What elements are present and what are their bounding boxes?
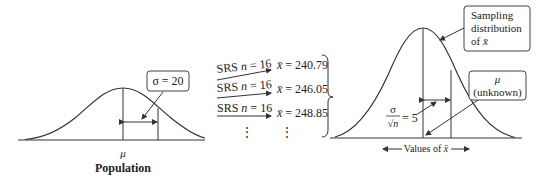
sampling-distribution: Sampling distribution of x̄ μ (unknown) …	[330, 6, 530, 154]
svg-text:distribution: distribution	[471, 22, 522, 34]
ellipsis-right: ⋮	[281, 125, 293, 139]
svg-text:x̄ = 240.79: x̄ = 240.79	[276, 58, 328, 72]
standard-error-label: σ √n = 5	[386, 102, 436, 129]
sample-row: SRS n = 16 x̄ = 246.05	[216, 77, 328, 98]
svg-text:μ: μ	[494, 73, 501, 85]
svg-text:= 5: = 5	[402, 111, 418, 125]
sample-row: SRS n = 16 x̄ = 240.79	[216, 56, 328, 80]
population-mu-label: μ	[119, 147, 126, 159]
svg-text:Sampling: Sampling	[471, 9, 514, 21]
svg-text:Values of x̄: Values of x̄	[404, 143, 449, 154]
se-pointer-arrow	[416, 102, 436, 115]
svg-text:SRS n = 16: SRS n = 16	[216, 77, 272, 95]
population-distribution: σ = 20 μ Population	[18, 71, 205, 175]
svg-text:of x̄: of x̄	[471, 35, 488, 47]
svg-text:(unknown): (unknown)	[473, 86, 522, 99]
mu-pointer-arrow	[426, 100, 478, 135]
svg-text:x̄ = 246.05: x̄ = 246.05	[276, 82, 328, 96]
population-caption: Population	[95, 161, 151, 175]
ellipsis-left: ⋮	[241, 125, 253, 139]
sigma-label: σ = 20	[152, 74, 183, 88]
svg-text:SRS n = 16: SRS n = 16	[217, 101, 272, 115]
samples-list: SRS n = 16 x̄ = 240.79 SRS n = 16 x̄ = 2…	[216, 55, 333, 139]
svg-text:σ: σ	[390, 103, 396, 115]
svg-text:√n: √n	[388, 118, 399, 129]
values-axis-label: Values of x̄	[383, 143, 469, 154]
svg-text:SRS n = 16: SRS n = 16	[216, 56, 272, 76]
population-curve	[25, 88, 205, 140]
svg-text:x̄ = 248.85: x̄ = 248.85	[276, 106, 328, 120]
sampling-pointer-arrow	[440, 28, 464, 40]
sampling-distribution-diagram: σ = 20 μ Population SRS n = 16 x̄ = 240.…	[0, 0, 545, 180]
sample-row: SRS n = 16 x̄ = 248.85	[217, 101, 328, 120]
